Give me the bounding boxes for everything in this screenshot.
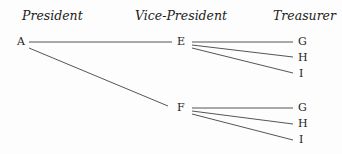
node-f-g: G xyxy=(298,102,307,114)
node-e: E xyxy=(177,36,185,48)
tree-edges xyxy=(0,0,342,154)
node-f-i: I xyxy=(299,134,303,146)
node-f: F xyxy=(177,102,185,114)
node-e-g: G xyxy=(298,36,307,48)
node-a: A xyxy=(17,36,25,48)
tree-diagram: President Vice-President Treasurer A E F… xyxy=(0,0,342,154)
node-e-h: H xyxy=(298,52,308,64)
node-e-i: I xyxy=(299,68,303,80)
node-f-h: H xyxy=(298,118,308,130)
